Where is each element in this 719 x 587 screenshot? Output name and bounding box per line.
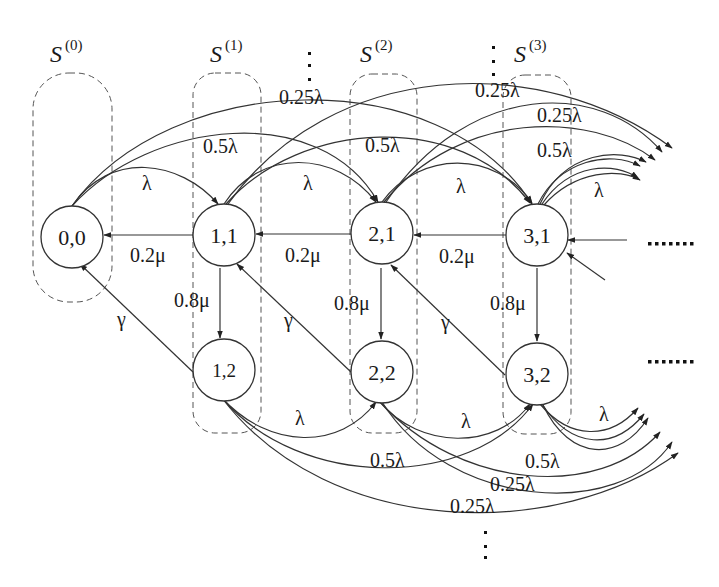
label-12-22-lambda: λ	[295, 407, 305, 429]
svg-text:2,2: 2,2	[368, 360, 396, 385]
label-21-31-lambda: λ	[456, 175, 466, 197]
group-label-s1: S(1)	[210, 37, 243, 67]
edge-32-out-1	[540, 404, 638, 432]
label-11-31-half-lambda: 0.5λ	[365, 134, 400, 156]
label-11-21-lambda: λ	[303, 172, 313, 194]
edge-31-out-3	[542, 168, 638, 204]
horizontal-dots-row-2	[648, 360, 694, 364]
label-22-out-half-lambda: 0.5λ	[525, 450, 560, 472]
svg-text:3,1: 3,1	[523, 223, 551, 248]
horizontal-dots-row-1	[648, 242, 694, 246]
label-12-out-quarter-lambda: 0.25λ	[450, 495, 495, 517]
edge-22-11-gamma	[237, 264, 351, 372]
node-3-1: 3,1	[506, 204, 568, 266]
nodes: 0,0 1,1 1,2 2,1 2,2 3,1 3,2	[41, 202, 568, 405]
label-21-11-mu: 0.2μ	[285, 244, 321, 267]
svg-text:2,1: 2,1	[368, 221, 396, 246]
vertical-dots-top-2	[492, 46, 495, 76]
label-12-00-gamma: γ	[116, 308, 126, 331]
label-half-lambda-top-right: 0.5λ	[537, 139, 572, 161]
svg-text:0,0: 0,0	[58, 225, 86, 250]
group-labels: S(0) S(1) S(2) S(3)	[50, 37, 547, 67]
label-11-12-mu: 0.8μ	[174, 289, 210, 312]
svg-text:1,1: 1,1	[210, 223, 238, 248]
label-31-out-lambda: λ	[594, 179, 604, 201]
label-quarter-lambda-top-3: 0.25λ	[537, 104, 582, 126]
label-32-out-lambda: λ	[599, 403, 609, 425]
node-1-2: 1,2	[193, 339, 255, 401]
label-32-21-gamma: γ	[440, 311, 450, 334]
label-00-21-half-lambda: 0.5λ	[203, 135, 238, 157]
label-22-32-lambda: λ	[461, 410, 471, 432]
node-3-2: 3,2	[506, 343, 568, 405]
svg-text:3,2: 3,2	[523, 362, 551, 387]
edge-32-out-3	[543, 405, 648, 450]
node-2-2: 2,2	[351, 341, 413, 403]
label-11-00-mu: 0.2μ	[130, 244, 166, 267]
label-31-32-mu: 0.8μ	[490, 292, 526, 315]
label-22-out-quarter-lambda: 0.25λ	[490, 473, 535, 495]
markov-state-diagram: S(0) S(1) S(2) S(3)	[0, 0, 719, 587]
node-1-1: 1,1	[193, 204, 255, 266]
edge-21-out-quarter-lambda	[386, 103, 662, 202]
group-label-s0: S(0)	[50, 37, 83, 67]
label-21-22-mu: 0.8μ	[334, 292, 370, 315]
edge-32-out-2	[542, 404, 644, 440]
label-quarter-lambda-top-1: 0.25λ	[279, 86, 324, 108]
label-31-21-mu: 0.2μ	[439, 245, 475, 268]
label-quarter-lambda-top-2: 0.25λ	[475, 79, 520, 101]
edge-in-31-diagonal	[567, 253, 605, 280]
label-22-11-gamma: γ	[283, 309, 293, 332]
edge-labels: λ 0.5λ 0.25λ λ 0.5λ 0.25λ 0.25λ λ 0.5λ λ…	[116, 79, 609, 517]
edge-31-out-1	[538, 159, 640, 204]
vertical-dots-top-1	[308, 52, 311, 81]
vertical-dots-bottom	[484, 531, 487, 559]
group-label-s2: S(2)	[360, 37, 393, 67]
edge-22-32-lambda	[380, 402, 530, 438]
label-00-11-lambda: λ	[142, 172, 152, 194]
group-label-s3: S(3)	[514, 37, 547, 67]
label-12-32-half-lambda: 0.5λ	[370, 449, 405, 471]
node-0-0: 0,0	[41, 206, 103, 268]
edge-12-00-gamma	[80, 264, 193, 372]
node-2-1: 2,1	[351, 202, 413, 264]
svg-text:1,2: 1,2	[212, 360, 236, 381]
